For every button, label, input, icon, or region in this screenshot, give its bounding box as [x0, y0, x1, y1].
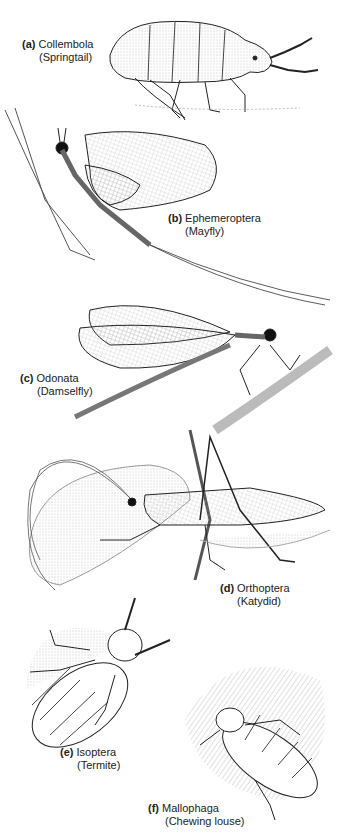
mayfly-drawing	[5, 108, 330, 305]
insect-illustrations	[0, 0, 343, 835]
panel-letter: (f)	[148, 802, 159, 814]
order-name: Orthoptera	[237, 582, 290, 594]
order-name: Odonata	[36, 372, 78, 384]
order-name: Mallophaga	[162, 802, 219, 814]
common-name: (Chewing louse)	[148, 815, 244, 828]
order-name: Isoptera	[76, 746, 116, 758]
common-name: (Springtail)	[22, 51, 93, 64]
panel-letter: (d)	[220, 582, 234, 594]
panel-letter: (e)	[60, 746, 73, 758]
damselfly-drawing	[75, 306, 330, 430]
springtail-drawing	[110, 21, 318, 120]
label-isoptera: (e)Isoptera (Termite)	[60, 746, 120, 772]
label-mallophaga: (f)Mallophaga (Chewing louse)	[148, 802, 244, 828]
common-name: (Termite)	[60, 759, 120, 772]
label-ephemeroptera: (b)Ephemeroptera (Mayfly)	[168, 212, 261, 238]
order-name: Ephemeroptera	[185, 212, 261, 224]
panel-letter: (b)	[168, 212, 182, 224]
common-name: (Damselfly)	[20, 385, 93, 398]
katydid-drawing	[28, 430, 330, 590]
label-collembola: (a)Collembola (Springtail)	[22, 38, 93, 64]
chewing-louse-drawing	[185, 667, 329, 820]
label-orthoptera: (d)Orthoptera (Katydid)	[220, 582, 290, 608]
panel-letter: (c)	[20, 372, 33, 384]
panel-letter: (a)	[22, 38, 35, 50]
termite-drawing	[17, 598, 170, 764]
order-name: Collembola	[38, 38, 93, 50]
label-odonata: (c)Odonata (Damselfly)	[20, 372, 93, 398]
common-name: (Katydid)	[220, 595, 290, 608]
common-name: (Mayfly)	[168, 225, 261, 238]
